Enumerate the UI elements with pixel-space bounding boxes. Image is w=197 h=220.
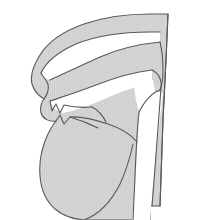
vocal-tract-diagram: Mid-sagittal section of the human vocal … (0, 0, 197, 220)
vocal-tract-sagittal-illustration (0, 0, 197, 220)
head-profile-group (31, 14, 168, 220)
head-and-neck-profile (31, 14, 168, 220)
